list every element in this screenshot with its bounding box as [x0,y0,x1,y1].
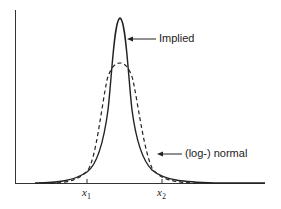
x2-tick-label: x2 [157,186,166,201]
density-chart [0,0,281,209]
implied-label: Implied [159,32,194,44]
normal-curve [50,63,200,183]
implied-arrowhead-icon [127,37,133,42]
x1-tick-label: x1 [82,186,91,201]
x1-sub: 1 [87,192,91,201]
normal-arrowhead-icon [157,152,163,157]
x2-sub: 2 [162,192,166,201]
normal-label: (log-) normal [185,147,247,159]
